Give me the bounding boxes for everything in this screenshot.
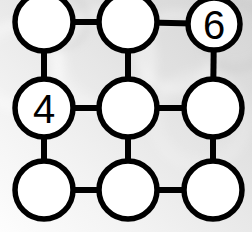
node-digit-label: 6 xyxy=(203,3,225,47)
graph-node-empty[interactable] xyxy=(99,161,157,219)
graph-node-empty[interactable] xyxy=(99,79,157,137)
graph-node-filled-4[interactable]: 4 xyxy=(15,79,73,137)
node-circle[interactable] xyxy=(184,79,242,137)
graph-node-empty[interactable] xyxy=(15,0,73,51)
node-circle[interactable] xyxy=(99,0,157,51)
node-circle[interactable] xyxy=(99,79,157,137)
number-grid-graph: 64 xyxy=(0,0,252,232)
node-circle[interactable] xyxy=(99,161,157,219)
puzzle-stage: 64 xyxy=(0,0,252,232)
node-circle[interactable] xyxy=(15,161,73,219)
node-layer: 64 xyxy=(15,0,242,219)
graph-node-filled-6[interactable]: 6 xyxy=(188,0,240,50)
graph-node-empty[interactable] xyxy=(184,79,242,137)
graph-node-empty[interactable] xyxy=(184,161,242,219)
node-circle[interactable] xyxy=(184,161,242,219)
graph-node-empty[interactable] xyxy=(99,0,157,51)
node-digit-label: 4 xyxy=(33,87,55,131)
node-circle[interactable] xyxy=(15,0,73,51)
graph-node-empty[interactable] xyxy=(15,161,73,219)
